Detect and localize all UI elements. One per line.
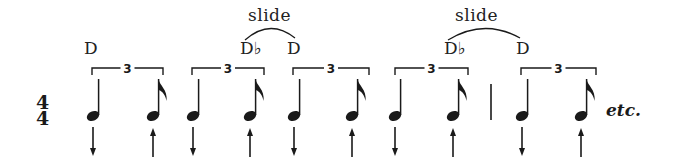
pitch-label: D: [84, 38, 98, 58]
eighth-flag-icon: [256, 79, 264, 101]
up-arrow-head-icon: [349, 128, 355, 136]
up-arrow-head-icon: [247, 128, 253, 136]
down-arrow-head-icon: [392, 148, 398, 156]
slide-label: slide: [455, 5, 498, 25]
pitch-label: D♭: [444, 38, 466, 58]
pitch-label: D: [287, 38, 301, 58]
triplet-number: 3: [554, 62, 562, 76]
up-arrow-head-icon: [578, 128, 584, 136]
music-notation: 33333: [0, 0, 675, 166]
time-signature-bottom: 4: [36, 109, 49, 128]
triplet-number: 3: [123, 62, 131, 76]
eighth-flag-icon: [459, 79, 467, 101]
pitch-label: D♭: [240, 38, 262, 58]
down-arrow-head-icon: [90, 148, 96, 156]
eighth-flag-icon: [159, 79, 167, 101]
eighth-flag-icon: [358, 79, 366, 101]
pitch-label: D: [516, 38, 530, 58]
up-arrow-head-icon: [450, 128, 456, 136]
triplet-number: 3: [224, 62, 232, 76]
down-arrow-head-icon: [519, 148, 525, 156]
up-arrow-head-icon: [150, 128, 156, 136]
triplet-number: 3: [427, 62, 435, 76]
triplet-number: 3: [327, 62, 335, 76]
down-arrow-head-icon: [190, 148, 196, 156]
slide-label: slide: [248, 5, 291, 25]
down-arrow-head-icon: [291, 148, 297, 156]
eighth-flag-icon: [587, 79, 595, 101]
etc-text: etc.: [606, 100, 641, 120]
